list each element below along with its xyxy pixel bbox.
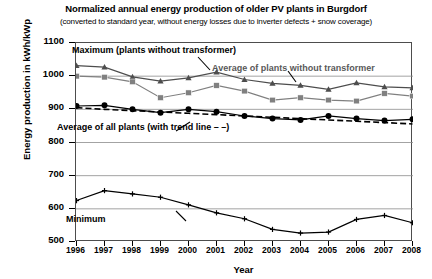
y-axis-title: Energy production in kWh/kWp xyxy=(21,10,32,170)
series-1-point-8 xyxy=(298,95,304,101)
series-1-point-11 xyxy=(382,91,388,97)
annotation-leader-0 xyxy=(198,57,210,70)
series-1-point-1 xyxy=(102,74,108,80)
series-line-4 xyxy=(77,191,413,233)
annotation-leader-3 xyxy=(176,211,186,221)
series-4 xyxy=(76,188,413,236)
series-2-point-9 xyxy=(326,113,332,119)
series-1-point-2 xyxy=(130,79,136,85)
y-tick-label-700: 700 xyxy=(22,168,64,179)
annotation-maximum: Maximum (plants without transformer) xyxy=(72,45,236,55)
y-tick-label-1000: 1000 xyxy=(22,68,64,79)
series-1-point-6 xyxy=(242,88,248,94)
y-tick-label-600: 600 xyxy=(22,201,64,212)
series-2-point-4 xyxy=(186,106,192,112)
series-1-point-12 xyxy=(410,93,413,99)
series-1-point-10 xyxy=(354,98,360,104)
chart-root: Normalized annual energy production of o… xyxy=(0,0,432,279)
series-2 xyxy=(76,102,413,123)
chart-title: Normalized annual energy production of o… xyxy=(0,3,432,14)
series-2-point-12 xyxy=(410,116,414,122)
series-1-point-7 xyxy=(270,97,276,103)
y-tick-label-500: 500 xyxy=(22,234,64,245)
x-axis-title: Year xyxy=(75,264,412,275)
series-0-point-10 xyxy=(353,80,359,86)
series-1-point-0 xyxy=(76,73,79,79)
series-1-point-3 xyxy=(158,95,164,101)
annotation-minimum: Minimum xyxy=(66,214,106,224)
y-tick-mark-500 xyxy=(69,241,75,242)
x-tick-label-2008: 2008 xyxy=(392,245,432,255)
series-1-point-4 xyxy=(186,90,192,96)
series-2-point-8 xyxy=(298,117,304,123)
y-tick-label-1100: 1100 xyxy=(22,35,64,46)
y-tick-label-800: 800 xyxy=(22,135,64,146)
chart-subtitle: (converted to standard year, without ene… xyxy=(0,17,432,26)
series-2-point-1 xyxy=(102,102,108,108)
annotation-average-all-plants: Average of all plants (with trend line –… xyxy=(57,122,229,132)
y-tick-label-900: 900 xyxy=(22,101,64,112)
series-1-point-5 xyxy=(214,83,220,89)
series-1-point-9 xyxy=(326,97,332,103)
annotation-average-without-transformer: Average of plants without transformer xyxy=(212,63,375,73)
